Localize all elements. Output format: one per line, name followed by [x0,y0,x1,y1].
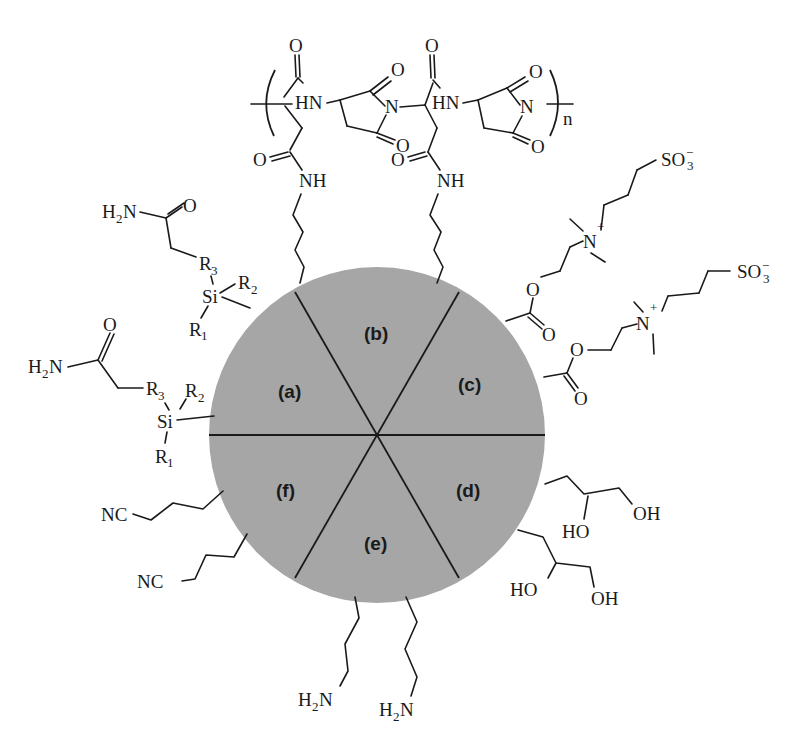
left-bracket [266,70,275,136]
svg-text:O: O [425,35,439,56]
svg-text:N: N [636,313,650,334]
svg-text:O: O [253,149,267,170]
svg-text:O: O [526,279,540,300]
svg-text:H: H [379,699,393,720]
svg-text:N: N [583,231,597,252]
svg-text:2: 2 [312,699,319,714]
svg-text:NC: NC [137,571,163,592]
svg-text:2: 2 [198,390,205,405]
svg-text:OH: OH [633,503,661,524]
repeat-n: n [563,108,573,129]
svg-text:3: 3 [687,158,694,173]
svg-text:SO: SO [661,149,685,170]
svg-text:O: O [103,314,117,335]
svg-text:Si: Si [202,286,218,307]
svg-text:H: H [298,689,312,710]
svg-text:O: O [529,61,543,82]
svg-text:O: O [183,195,197,216]
svg-text:2: 2 [42,366,49,381]
svg-text:NC: NC [101,504,127,525]
svg-text:HN: HN [432,92,460,113]
svg-text:R: R [238,272,251,293]
svg-text:NH: NH [437,170,465,191]
segment-d-label: (d) [456,480,480,501]
polysuccinimide-chain: n O HN O NH O N O O HN [251,35,573,283]
svg-text:R: R [185,380,198,401]
particle: (a) (b) (c) (d) (e) (f) [209,267,545,603]
svg-text:3: 3 [158,388,165,403]
segment-f-label: (f) [276,480,295,501]
svg-text:2: 2 [393,709,400,724]
segment-c-label: (c) [458,374,481,395]
svg-text:2: 2 [116,211,123,226]
svg-text:1: 1 [167,455,174,470]
svg-text:Si: Si [157,411,173,432]
svg-text:N: N [400,699,414,720]
surface-chemistry-diagram: (a) (b) (c) (d) (e) (f) n O HN O NH O [0,0,798,743]
svg-text:3: 3 [763,271,770,286]
svg-text:OH: OH [591,588,619,609]
svg-text:HO: HO [562,521,589,542]
svg-text:N: N [319,689,333,710]
svg-text:3: 3 [211,263,218,278]
svg-text:O: O [570,339,584,360]
svg-text:NH: NH [299,170,327,191]
svg-text:−: − [686,145,693,160]
svg-text:N: N [385,96,399,117]
svg-text:HO: HO [510,579,537,600]
svg-text:+: + [650,300,657,315]
segment-e-label: (e) [364,533,387,554]
svg-text:H: H [28,356,42,377]
svg-text:−: − [762,258,769,273]
svg-text:HN: HN [295,92,323,113]
svg-text:2: 2 [251,282,258,297]
svg-text:O: O [289,35,303,56]
segment-a-label: (a) [278,381,301,402]
svg-text:O: O [574,388,588,409]
segment-b-label: (b) [364,323,388,344]
svg-text:O: O [542,324,556,345]
svg-text:1: 1 [201,328,208,343]
amine-groups: H 2 N H 2 N [298,597,417,724]
sulfobetaine-groups: O O N + SO 3 − O O N + SO 3 [506,145,770,409]
svg-text:O: O [531,136,545,157]
svg-text:N: N [123,201,137,222]
svg-text:O: O [391,59,405,80]
svg-text:H: H [102,201,116,222]
svg-text:N: N [49,356,63,377]
svg-text:SO: SO [737,261,761,282]
svg-text:N: N [520,96,534,117]
svg-text:O: O [391,149,405,170]
right-bracket [550,70,558,136]
